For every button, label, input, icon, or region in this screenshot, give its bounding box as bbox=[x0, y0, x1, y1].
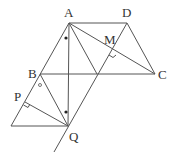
angle-circle-B bbox=[39, 84, 42, 87]
angle-dot-A bbox=[64, 36, 67, 39]
diagram-canvas: A D M B C P Q bbox=[0, 0, 176, 163]
segment-AQ bbox=[68, 23, 69, 126]
label-D: D bbox=[122, 5, 131, 20]
geometry-figure: A D M B C P Q bbox=[0, 0, 176, 163]
right-angle-mark-P bbox=[24, 105, 30, 108]
right-angle-mark-M bbox=[109, 55, 116, 58]
line-DQ bbox=[54, 23, 127, 152]
label-B: B bbox=[28, 66, 37, 81]
label-A: A bbox=[64, 5, 74, 20]
angle-dot-Q bbox=[64, 110, 67, 113]
label-M: M bbox=[104, 32, 116, 47]
segment-AE bbox=[69, 23, 97, 74]
label-Q: Q bbox=[69, 129, 79, 144]
label-C: C bbox=[158, 67, 167, 82]
label-P: P bbox=[14, 89, 21, 104]
segment-DC bbox=[127, 23, 155, 74]
